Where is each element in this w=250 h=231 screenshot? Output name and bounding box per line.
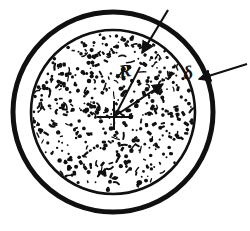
diagram-canvas: R δ xyxy=(0,0,250,231)
radius-label: R xyxy=(118,61,133,81)
figure-svg xyxy=(0,0,250,231)
